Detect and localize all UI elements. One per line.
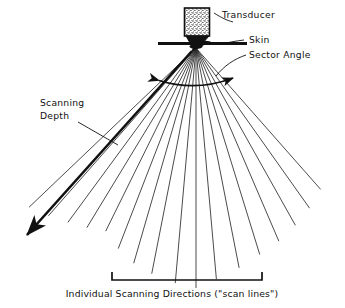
scan-line [196, 48, 321, 189]
scan-line [196, 48, 295, 225]
ultrasound-sector-scan-figure: Transducer Skin Sector Angle Scanning De… [0, 0, 345, 308]
scan-lines-caption: Individual Scanning Directions ("scan li… [66, 288, 279, 299]
skin-label: Skin [249, 34, 270, 45]
scanning-depth-label-line1: Scanning [40, 97, 84, 108]
sector-angle-label: Sector Angle [249, 49, 311, 60]
scan-line [29, 48, 196, 207]
scanning-depth-label-line2: Depth [40, 110, 69, 121]
scan-line [87, 48, 196, 228]
scan-line [118, 48, 196, 249]
scanning-depth-arrow [27, 51, 192, 235]
scan-line [196, 48, 310, 208]
transducer-label: Transducer [221, 9, 275, 20]
scan-line [196, 48, 239, 268]
scan-line [152, 48, 196, 274]
diagram-canvas: Transducer Skin Sector Angle Scanning De… [0, 0, 345, 308]
scan-line [68, 48, 196, 222]
scan-lines-bracket [112, 272, 262, 280]
scan-line [196, 48, 279, 241]
scan-line [196, 48, 216, 279]
sector-angle-leader-line [216, 55, 246, 76]
